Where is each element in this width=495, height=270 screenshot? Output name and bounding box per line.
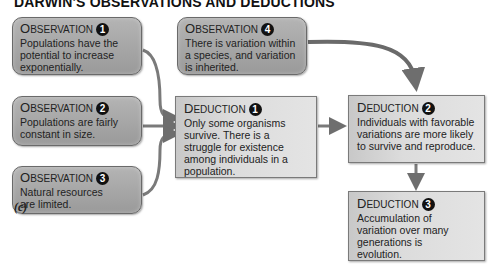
deduction-box-3: DEDUCTION3 Accumulation of variation ove… — [348, 191, 485, 261]
number-badge-icon: 1 — [249, 103, 262, 116]
arrow-obs1-to-ded1 — [143, 50, 172, 118]
observation-box-1: OBSERVATION1 Populations have the potent… — [12, 17, 142, 75]
arrow-obs3-to-ded1 — [143, 134, 172, 195]
observation-box-2: OBSERVATION2 Populations are fairly cons… — [12, 96, 142, 146]
deduction-2-text: Individuals with favorable variations ar… — [357, 116, 482, 152]
observation-3-text: Natural resources are limited. — [20, 186, 120, 210]
deduction-box-2: DEDUCTION2 Individuals with favorable va… — [348, 95, 485, 163]
figure-caption: (c) — [14, 200, 27, 215]
deduction-3-text: Accumulation of variation over many gene… — [357, 212, 467, 260]
deduction-2-heading: DEDUCTION2 — [357, 101, 476, 115]
number-badge-icon: 2 — [422, 102, 435, 115]
arrow-obs4-to-ded2 — [308, 42, 415, 80]
number-badge-icon: 3 — [96, 172, 109, 185]
observation-box-4: OBSERVATION4 There is variation within a… — [177, 17, 307, 75]
observation-2-heading: OBSERVATION2 — [20, 101, 134, 115]
observation-3-heading: OBSERVATION3 — [20, 171, 134, 185]
deduction-3-heading: DEDUCTION3 — [357, 197, 476, 211]
deduction-1-text: Only some organisms survive. There is a … — [184, 117, 302, 177]
number-badge-icon: 3 — [422, 198, 435, 211]
deduction-1-heading: DEDUCTION1 — [184, 102, 308, 116]
number-badge-icon: 1 — [96, 23, 109, 36]
observation-4-heading: OBSERVATION4 — [185, 22, 299, 36]
observation-2-text: Populations are fairly constant in size. — [20, 116, 134, 140]
observation-1-text: Populations have the potential to increa… — [20, 37, 134, 73]
observation-box-3: OBSERVATION3 Natural resources are limit… — [12, 166, 142, 214]
number-badge-icon: 2 — [96, 102, 109, 115]
deduction-box-1: DEDUCTION1 Only some organisms survive. … — [175, 96, 317, 178]
number-badge-icon: 4 — [261, 23, 274, 36]
observation-4-text: There is variation within a species, and… — [185, 37, 299, 73]
observation-1-heading: OBSERVATION1 — [20, 22, 134, 36]
